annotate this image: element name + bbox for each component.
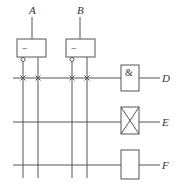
input-label-a: A — [28, 4, 36, 16]
and-gate-symbol: & — [125, 67, 133, 78]
x-box-cross-icon — [121, 107, 139, 134]
inversion-bubble-a — [21, 58, 25, 62]
input-label-b: B — [77, 4, 84, 16]
logic-array-diagram: A − B − & D E F — [0, 0, 181, 196]
input-a-buffer-symbol: − — [22, 43, 28, 54]
box-f — [121, 150, 139, 179]
output-label-f: F — [161, 159, 169, 171]
output-label-d: D — [161, 72, 170, 84]
inversion-bubble-b — [70, 58, 74, 62]
output-label-e: E — [161, 116, 169, 128]
input-b-buffer-symbol: − — [71, 43, 77, 54]
